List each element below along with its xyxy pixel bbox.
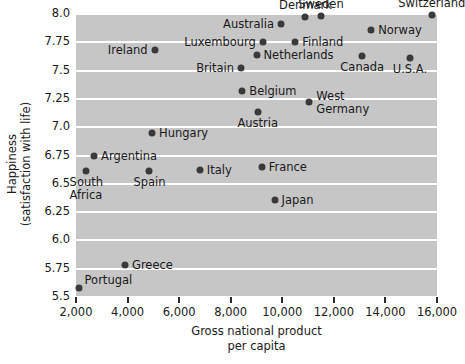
x-axis-title-line1: Gross national product xyxy=(76,324,437,339)
data-point-label: Canada xyxy=(340,61,384,74)
data-point xyxy=(254,109,261,116)
data-point-label: Luxembourg xyxy=(184,36,256,49)
y-tick-label: 5.75 xyxy=(44,263,70,274)
y-axis-line xyxy=(74,14,76,297)
y-tick-label: 6.0 xyxy=(52,234,70,245)
data-point-label: Netherlands xyxy=(264,49,334,62)
data-point xyxy=(196,167,203,174)
y-tick-label: 8.0 xyxy=(52,8,70,19)
x-tick-mark xyxy=(178,297,180,303)
data-point-label: Austria xyxy=(237,117,278,130)
y-tick-label: 7.0 xyxy=(52,121,70,132)
x-tick-mark xyxy=(281,297,283,303)
gridline-y xyxy=(76,183,437,185)
data-point xyxy=(317,13,324,20)
data-point-label: Australia xyxy=(223,18,274,31)
data-point xyxy=(253,51,260,58)
x-tick-label: 4,000 xyxy=(111,305,144,319)
x-tick-mark xyxy=(384,297,386,303)
data-point xyxy=(75,284,82,291)
data-point xyxy=(239,87,246,94)
data-point-label: Denmark xyxy=(279,0,332,12)
data-point-label: Portugal xyxy=(85,274,133,287)
gridline-y xyxy=(76,268,437,270)
data-point xyxy=(292,39,299,46)
x-tick-label: 10,000 xyxy=(262,305,302,319)
data-point-label: Spain xyxy=(133,176,165,189)
data-point xyxy=(368,26,375,33)
gridline-y xyxy=(76,211,437,213)
x-tick-mark xyxy=(436,297,438,303)
y-tick-label: 6.75 xyxy=(44,150,70,161)
y-tick-label: 7.5 xyxy=(52,65,70,76)
data-point-label: Norway xyxy=(378,24,422,37)
gridline-y xyxy=(76,296,437,298)
x-tick-label: 12,000 xyxy=(314,305,354,319)
data-point xyxy=(406,55,413,62)
data-point-label: Hungary xyxy=(159,127,208,140)
y-axis-title-line1: Happiness xyxy=(5,49,19,279)
data-point xyxy=(151,47,158,54)
data-point-label: WestGermany xyxy=(316,90,369,115)
y-axis-title: Happiness (satisfaction with life) xyxy=(5,49,33,279)
x-tick-label: 2,000 xyxy=(60,305,93,319)
data-point-label: Argentina xyxy=(101,149,157,162)
data-point xyxy=(146,168,153,175)
data-point xyxy=(91,152,98,159)
data-point-label: SouthAfrica xyxy=(70,176,103,201)
x-tick-label: 14,000 xyxy=(365,305,405,319)
data-point-label: Belgium xyxy=(249,85,296,98)
y-tick-label: 6.5 xyxy=(52,178,70,189)
x-axis-title: Gross national product per capita xyxy=(76,324,437,354)
data-point-label: Greece xyxy=(132,259,173,272)
data-point-label: Switzerland xyxy=(398,0,465,10)
data-point xyxy=(259,39,266,46)
y-tick-label: 5.5 xyxy=(52,291,70,302)
x-tick-mark xyxy=(127,297,129,303)
x-axis-title-line2: per capita xyxy=(76,339,437,354)
y-tick-label: 7.25 xyxy=(44,93,70,104)
data-point xyxy=(238,65,245,72)
data-point xyxy=(271,196,278,203)
x-tick-label: 6,000 xyxy=(163,305,196,319)
data-point xyxy=(258,163,265,170)
data-point xyxy=(428,12,435,19)
data-point-label: Japan xyxy=(282,193,314,206)
data-point-label: Italy xyxy=(207,164,232,177)
gridline-y xyxy=(76,13,437,15)
data-point xyxy=(277,21,284,28)
data-point-label: U.S.A. xyxy=(393,63,427,76)
data-point-label: Britain xyxy=(196,62,234,75)
data-point xyxy=(306,99,313,106)
scatter-plot-figure: 5.55.756.06.256.56.757.07.257.57.758.0 H… xyxy=(0,0,465,364)
data-point xyxy=(302,14,309,21)
data-point xyxy=(83,168,90,175)
y-axis-title-line2: (satisfaction with life) xyxy=(19,49,33,279)
x-tick-label: 16,000 xyxy=(417,305,457,319)
data-point xyxy=(121,262,128,269)
y-tick-label: 6.25 xyxy=(44,206,70,217)
data-point xyxy=(359,52,366,59)
y-tick-label: 7.75 xyxy=(44,36,70,47)
data-point-label: France xyxy=(269,161,307,174)
gridline-y xyxy=(76,239,437,241)
data-point xyxy=(149,129,156,136)
x-tick-mark xyxy=(230,297,232,303)
gridline-y xyxy=(76,98,437,100)
x-tick-mark xyxy=(75,297,77,303)
x-tick-mark xyxy=(333,297,335,303)
data-point-label: Ireland xyxy=(108,44,148,57)
x-tick-label: 8,000 xyxy=(214,305,247,319)
